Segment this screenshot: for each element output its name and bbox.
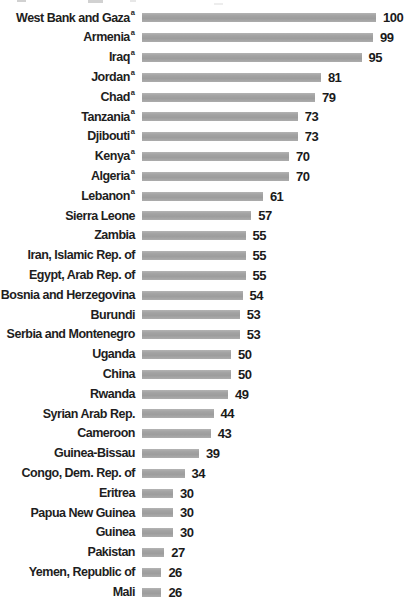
category-label-text: Jordan [91,70,130,84]
value-label: 70 [296,150,309,163]
footnote-marker: a [131,8,135,17]
value-label: 39 [206,447,219,460]
bar [142,172,289,181]
value-label: 73 [305,110,318,123]
category-label: Kenyaa [0,150,135,163]
category-label: Cameroon [0,427,135,440]
cropped-text-remnant [0,0,413,4]
bar-row: Guinea-Bissau39 [0,444,413,464]
value-label: 50 [238,348,251,361]
category-label-text: Burundi [91,308,135,322]
category-label: Yemen, Republic of [0,566,135,579]
bar-row: Tanzaniaa73 [0,107,413,127]
category-label: Syrian Arab Rep. [0,408,135,421]
bar-row: Papua New Guinea30 [0,503,413,523]
category-label: Iraqa [0,51,135,64]
value-label: 30 [180,526,193,539]
category-label-text: Egypt, Arab Rep. of [29,268,135,282]
bar [142,508,173,517]
footnote-marker: a [131,68,135,77]
category-label-text: Uganda [92,347,135,361]
bar-row: Rwanda49 [0,384,413,404]
bar-row: Zambia55 [0,226,413,246]
value-label: 27 [171,546,184,559]
value-label: 81 [328,71,341,84]
bar [142,93,315,102]
category-label-text: Armenia [83,30,130,44]
category-label-text: Lebanon [81,189,130,203]
value-label: 100 [383,11,403,24]
bar-row: Yemen, Republic of26 [0,562,413,582]
category-label: Rwanda [0,388,135,401]
bar [142,370,231,379]
category-label: Sierra Leone [0,210,135,223]
bar-row: Uganda50 [0,345,413,365]
bar-chart: West Bank and Gazaa100Armeniaa99Iraqa95J… [0,8,413,602]
bar [142,489,173,498]
value-label: 53 [247,308,260,321]
bar [142,231,246,240]
value-label: 55 [253,229,266,242]
category-label: Tanzaniaa [0,111,135,124]
bar [142,13,376,22]
bar [142,53,362,62]
bar-row: Burundi53 [0,305,413,325]
bar-row: China50 [0,364,413,384]
bar-row: Djiboutia73 [0,127,413,147]
value-label: 61 [270,190,283,203]
bar [142,310,240,319]
category-label: Armeniaa [0,31,135,44]
category-label: Zambia [0,229,135,242]
bar [142,330,240,339]
category-label: Lebanona [0,190,135,203]
bar-row: Armeniaa99 [0,28,413,48]
category-label-text: Iraq [109,50,130,64]
category-label-text: Sierra Leone [65,209,135,223]
bar-row: Cameroon43 [0,424,413,444]
category-label: China [0,368,135,381]
bar [142,350,231,359]
category-label-text: West Bank and Gaza [16,11,130,25]
value-label: 54 [250,289,263,302]
category-label-text: Syrian Arab Rep. [43,407,135,421]
value-label: 50 [238,368,251,381]
bar-row: Egypt, Arab Rep. of55 [0,265,413,285]
category-label-text: China [103,367,135,381]
bar [142,390,228,399]
bar [142,588,161,597]
category-label: Iran, Islamic Rep. of [0,249,135,262]
value-label: 26 [168,566,181,579]
category-label-text: Eritrea [99,486,135,500]
value-label: 43 [218,427,231,440]
category-label-text: Kenya [95,149,130,163]
footnote-marker: a [131,127,135,136]
category-label: Burundi [0,309,135,322]
bar-row: Syrian Arab Rep.44 [0,404,413,424]
bar [142,112,298,121]
bar [142,33,373,42]
value-label: 55 [253,269,266,282]
bar [142,211,251,220]
category-label-text: Cameroon [77,426,135,440]
category-label: Uganda [0,348,135,361]
bar [142,469,185,478]
footnote-marker: a [131,167,135,176]
value-label: 79 [322,91,335,104]
value-label: 44 [221,407,234,420]
value-label: 57 [258,209,271,222]
footnote-marker: a [131,28,135,37]
category-label-text: Chad [101,90,130,104]
bar [142,409,214,418]
category-label-text: Algeria [91,169,130,183]
bar [142,568,161,577]
category-label: Pakistan [0,546,135,559]
footnote-marker: a [131,48,135,57]
bar-row: Serbia and Montenegro53 [0,325,413,345]
category-label-text: Iran, Islamic Rep. of [27,248,135,262]
bar [142,152,289,161]
value-label: 30 [180,506,193,519]
footnote-marker: a [131,187,135,196]
category-label-text: Congo, Dem. Rep. of [22,466,135,480]
bar-row: Sierra Leone57 [0,206,413,226]
category-label: Guinea [0,526,135,539]
